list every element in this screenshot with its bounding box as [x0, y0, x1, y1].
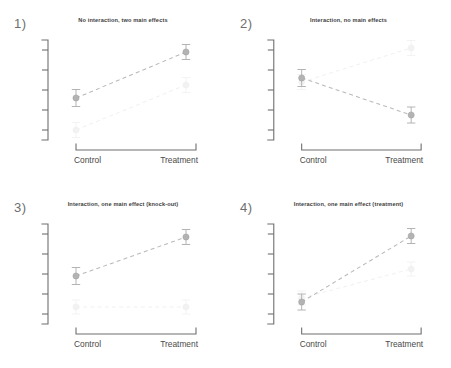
x-axis-bracket: [302, 144, 421, 150]
data-point-marker: [408, 45, 414, 51]
data-point-marker: [299, 75, 305, 81]
data-point-marker: [408, 112, 414, 118]
data-point-marker: [408, 233, 414, 239]
plot-panel: 3)Interaction, one main effect (knock-ou…: [0, 184, 226, 368]
x-axis-label-treatment: Treatment: [160, 155, 199, 165]
series-line: [302, 48, 412, 82]
x-axis-label-control: Control: [74, 155, 101, 165]
data-point-marker: [73, 95, 79, 101]
x-axis-label-treatment: Treatment: [385, 155, 423, 165]
data-point-marker: [183, 49, 189, 55]
data-point-marker: [183, 304, 189, 310]
plot-panel: 4)Interaction, one main effect (treatmen…: [226, 184, 451, 368]
data-point-marker: [73, 304, 79, 310]
series-line: [76, 237, 186, 276]
plot-panel: 1)No interaction, two main effectsContro…: [0, 0, 226, 184]
data-point-marker: [73, 127, 79, 133]
x-axis-label-control: Control: [74, 339, 101, 349]
plot-area: ControlTreatment: [226, 0, 451, 184]
x-axis-label-control: Control: [300, 339, 327, 349]
x-axis-bracket: [302, 328, 421, 334]
plot-area: ControlTreatment: [0, 184, 226, 368]
series-line: [302, 78, 412, 115]
data-point-marker: [299, 299, 305, 305]
plot-panel: 2)Interaction, no main effectsControlTre…: [226, 0, 451, 184]
x-axis-label-control: Control: [300, 155, 327, 165]
x-axis-label-treatment: Treatment: [385, 339, 423, 349]
series-line: [76, 52, 186, 98]
data-point-marker: [73, 273, 79, 279]
series-line: [302, 269, 412, 298]
x-axis-label-treatment: Treatment: [160, 339, 199, 349]
series-line: [76, 85, 186, 130]
plot-area: ControlTreatment: [0, 0, 226, 184]
data-point-marker: [183, 234, 189, 240]
data-point-marker: [183, 82, 189, 88]
interaction-plot-grid: 1)No interaction, two main effectsContro…: [0, 0, 451, 368]
x-axis-bracket: [76, 328, 196, 334]
x-axis-bracket: [76, 144, 196, 150]
plot-area: ControlTreatment: [226, 184, 451, 368]
series-line: [302, 236, 412, 302]
data-point-marker: [408, 266, 414, 272]
